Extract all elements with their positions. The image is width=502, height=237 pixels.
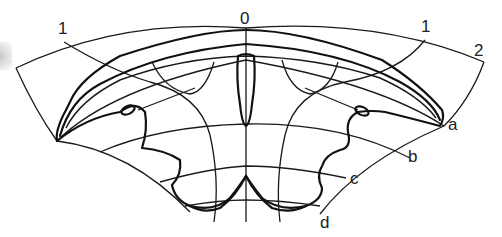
meridian-label-right-1: 1 bbox=[421, 17, 430, 36]
wing-outline bbox=[57, 30, 443, 211]
meridian-label-right-2: 2 bbox=[474, 41, 483, 60]
meridian-label-left-1: 1 bbox=[58, 19, 67, 38]
meridian-label-center-0: 0 bbox=[240, 9, 249, 28]
wing-projection-diagram: 1 2 0 1 2 a b c d bbox=[0, 0, 502, 237]
parallel-label-a: a bbox=[448, 115, 458, 134]
parallel-label-d: d bbox=[320, 213, 329, 232]
parallel-label-c: c bbox=[350, 169, 359, 188]
parallel-label-b: b bbox=[408, 147, 417, 166]
scan-shadow bbox=[0, 42, 12, 70]
diagram-canvas: 1 2 0 1 2 a b c d bbox=[0, 0, 502, 237]
